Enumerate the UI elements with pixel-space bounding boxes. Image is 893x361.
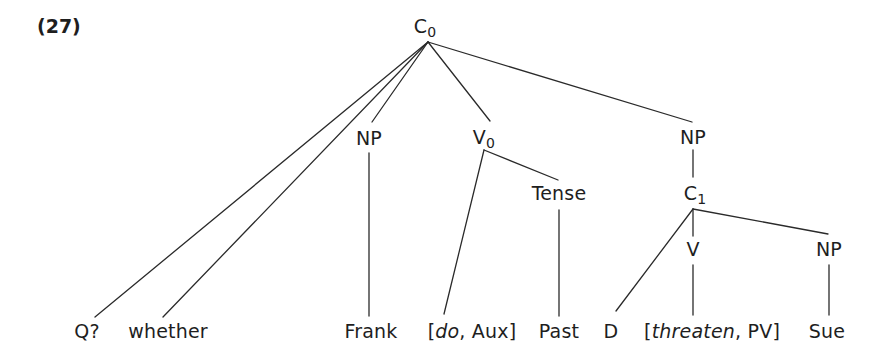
leaf-sue: Sue <box>809 320 845 342</box>
edge-c1-np-sue <box>693 209 828 234</box>
leaf-d: D <box>604 320 619 342</box>
node-np-upper: NP <box>680 126 706 148</box>
leaf-q-text: Q? <box>74 320 99 342</box>
node-c0: C0 <box>414 15 437 37</box>
edge-c1-d <box>616 209 693 311</box>
node-np-frank-label: NP <box>356 127 382 149</box>
node-v0-subscript: 0 <box>486 135 495 151</box>
edge-c0-v0 <box>428 42 490 121</box>
leaf-d-text: D <box>604 320 619 342</box>
leaf-frank-text: Frank <box>344 320 397 342</box>
tree-edges <box>0 0 893 361</box>
node-c1: C1 <box>684 182 707 204</box>
edge-c0-q <box>95 42 428 317</box>
leaf-do-aux-open: [ <box>428 320 436 342</box>
leaf-threaten-pv-open: [ <box>644 320 652 342</box>
node-c1-label: C <box>684 182 697 204</box>
edge-v0-tense <box>484 150 558 180</box>
node-tense: Tense <box>532 182 587 204</box>
leaf-whether-text: whether <box>128 320 208 342</box>
node-c1-subscript: 1 <box>697 191 706 207</box>
node-v0: V0 <box>473 126 495 148</box>
node-np-sue: NP <box>816 238 842 260</box>
leaf-threaten-pv-rest: , PV] <box>735 320 780 342</box>
leaf-past-text: Past <box>539 320 579 342</box>
leaf-sue-text: Sue <box>809 320 845 342</box>
leaf-whether: whether <box>128 320 208 342</box>
leaf-q: Q? <box>74 320 99 342</box>
leaf-frank: Frank <box>344 320 397 342</box>
leaf-threaten-pv-italic: threaten <box>652 320 735 342</box>
edge-v0-do-aux <box>444 150 484 314</box>
edge-c0-whether <box>163 42 428 317</box>
node-c0-label: C <box>414 15 427 37</box>
node-v0-label: V <box>473 126 486 148</box>
node-np-sue-label: NP <box>816 238 842 260</box>
node-np-frank: NP <box>356 127 382 149</box>
syntax-tree-diagram: (27) C0 NP V0 Tense NP <box>0 0 893 361</box>
node-v: V <box>686 238 699 260</box>
leaf-past: Past <box>539 320 579 342</box>
edge-c0-np-upper <box>428 42 692 122</box>
leaf-do-aux-rest: , Aux] <box>459 320 516 342</box>
leaf-do-aux-italic: do <box>435 320 459 342</box>
node-c0-subscript: 0 <box>427 24 436 40</box>
leaf-threaten-pv: [threaten, PV] <box>644 320 780 342</box>
leaf-do-aux: [do, Aux] <box>428 320 517 342</box>
node-np-upper-label: NP <box>680 126 706 148</box>
node-v-label: V <box>686 238 699 260</box>
node-tense-label: Tense <box>532 182 587 204</box>
